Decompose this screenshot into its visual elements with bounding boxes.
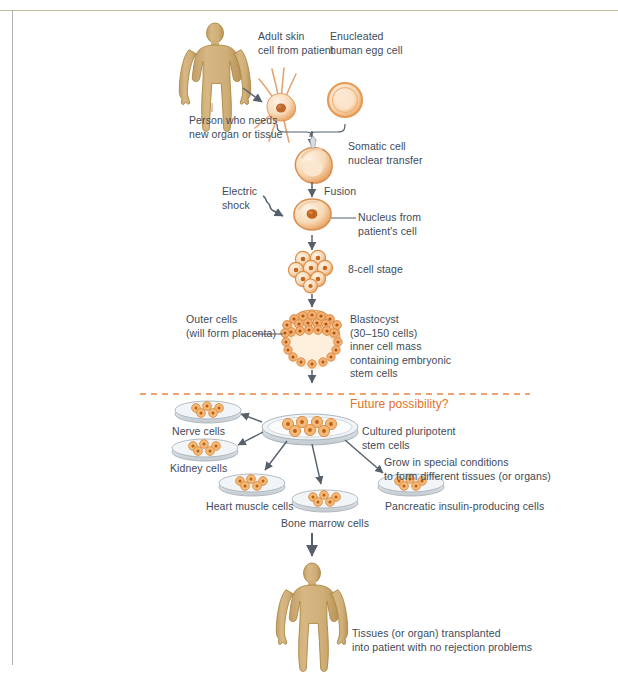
eight-cell-stage-illustration	[288, 250, 332, 293]
label-somatic-nuclear-transfer: Somatic cell nuclear transfer	[348, 140, 423, 167]
label-blastocyst: Blastocyst (30–150 cells) inner cell mas…	[350, 313, 451, 381]
label-8-cell-stage: 8-cell stage	[348, 263, 403, 277]
label-heart-muscle-cells: Heart muscle cells	[206, 500, 294, 514]
stem-cell-therapeutic-cloning-diagram	[0, 0, 618, 675]
label-adult-skin-cell: Adult skin cell from patient	[258, 30, 334, 57]
diagram-page: Adult skin cell from patient Enucleated …	[0, 0, 618, 675]
label-fusion: Fusion	[324, 185, 356, 199]
label-tissues-transplanted: Tissues (or organ) transplanted into pat…	[352, 627, 532, 654]
kidney-cells-dish	[172, 439, 238, 461]
blastocyst-illustration	[281, 310, 343, 370]
label-outer-cells: Outer cells (will form placenta)	[186, 313, 276, 340]
label-electric-shock: Electric shock	[222, 185, 257, 212]
bone-marrow-cells-dish	[292, 490, 358, 512]
label-pancreatic-insulin-cells: Pancreatic insulin-producing cells	[385, 500, 544, 514]
label-future-possibility: Future possibility?	[350, 398, 449, 412]
label-bone-marrow-cells: Bone marrow cells	[281, 517, 369, 531]
label-person-needs-organ: Person who needs new organ or tissue	[189, 114, 283, 141]
patient-figure-bottom	[276, 563, 347, 671]
label-nerve-cells: Nerve cells	[172, 425, 225, 439]
central-pluripotent-dish	[262, 414, 358, 445]
label-grow-special-conditions: Grow in special conditions to form diffe…	[384, 456, 551, 483]
somatic-nuclear-transfer-cell	[295, 136, 332, 183]
nerve-cells-dish	[175, 401, 241, 423]
heart-muscle-cells-dish	[219, 474, 285, 496]
enucleated-egg-cell-illustration	[328, 83, 362, 117]
label-kidney-cells: Kidney cells	[170, 462, 227, 476]
label-cultured-pluripotent-stem-cells: Cultured pluripotent stem cells	[362, 425, 456, 452]
fused-cell-with-nucleus	[294, 199, 331, 230]
electric-shock-arrow	[263, 196, 283, 216]
arrow-to-heart-cells	[265, 441, 287, 470]
label-nucleus-from-patient: Nucleus from patient's cell	[358, 211, 421, 238]
arrow-to-nerve-cells	[241, 414, 262, 422]
label-enucleated-egg: Enucleated human egg cell	[330, 30, 403, 57]
arrow-to-bone-marrow	[312, 444, 321, 484]
arrow-to-kidney-cells	[238, 432, 263, 445]
